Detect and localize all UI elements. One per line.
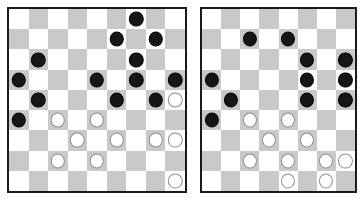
board-square[interactable] [336, 151, 355, 171]
board-square[interactable] [68, 151, 88, 171]
board-square[interactable] [317, 29, 336, 49]
white-piece[interactable] [262, 133, 276, 148]
white-piece[interactable] [168, 173, 182, 188]
board-square[interactable] [165, 90, 185, 110]
board-square[interactable] [107, 171, 127, 191]
board-square[interactable] [298, 171, 317, 191]
board-square[interactable] [29, 151, 49, 171]
black-piece[interactable] [204, 113, 218, 128]
white-piece[interactable] [319, 153, 333, 168]
black-piece[interactable] [12, 113, 26, 128]
board-square[interactable] [29, 90, 49, 110]
board-square[interactable] [29, 110, 49, 130]
board-square[interactable] [279, 171, 298, 191]
board-square[interactable] [107, 130, 127, 150]
black-piece[interactable] [204, 72, 218, 87]
board-square[interactable] [87, 171, 107, 191]
board-square[interactable] [87, 151, 107, 171]
board-square[interactable] [48, 9, 68, 29]
board-square[interactable] [336, 49, 355, 69]
board-square[interactable] [146, 171, 166, 191]
board-square[interactable] [126, 49, 146, 69]
black-piece[interactable] [109, 93, 123, 108]
board-square[interactable] [202, 110, 221, 130]
white-piece[interactable] [319, 173, 333, 188]
board-square[interactable] [165, 130, 185, 150]
board-square[interactable] [146, 9, 166, 29]
board-square[interactable] [202, 90, 221, 110]
black-piece[interactable] [148, 93, 162, 108]
board-square[interactable] [221, 171, 240, 191]
board-square[interactable] [87, 9, 107, 29]
board-square[interactable] [126, 171, 146, 191]
board-square[interactable] [317, 9, 336, 29]
board-square[interactable] [298, 90, 317, 110]
board-square[interactable] [259, 49, 278, 69]
board-square[interactable] [48, 110, 68, 130]
black-piece[interactable] [243, 32, 257, 47]
board-square[interactable] [259, 9, 278, 29]
board-square[interactable] [146, 29, 166, 49]
board-square[interactable] [29, 171, 49, 191]
white-piece[interactable] [281, 153, 295, 168]
board-square[interactable] [240, 49, 259, 69]
board-square[interactable] [336, 90, 355, 110]
black-piece[interactable] [90, 72, 104, 87]
board-square[interactable] [202, 49, 221, 69]
board-square[interactable] [202, 29, 221, 49]
board-square[interactable] [68, 171, 88, 191]
board-square[interactable] [126, 130, 146, 150]
black-piece[interactable] [148, 32, 162, 47]
board-square[interactable] [317, 70, 336, 90]
board-square[interactable] [9, 90, 29, 110]
white-piece[interactable] [70, 133, 84, 148]
board-square[interactable] [202, 151, 221, 171]
board-square[interactable] [240, 171, 259, 191]
board-square[interactable] [298, 70, 317, 90]
black-piece[interactable] [338, 93, 352, 108]
black-piece[interactable] [338, 52, 352, 67]
board-square[interactable] [68, 110, 88, 130]
board-square[interactable] [29, 29, 49, 49]
board-square[interactable] [9, 151, 29, 171]
board-square[interactable] [279, 49, 298, 69]
board-square[interactable] [202, 171, 221, 191]
board-square[interactable] [146, 130, 166, 150]
board-square[interactable] [221, 70, 240, 90]
board-square[interactable] [68, 49, 88, 69]
board-square[interactable] [165, 49, 185, 69]
board-square[interactable] [240, 9, 259, 29]
board-square[interactable] [279, 151, 298, 171]
board-square[interactable] [87, 130, 107, 150]
board-square[interactable] [259, 29, 278, 49]
board-square[interactable] [48, 171, 68, 191]
board-square[interactable] [146, 110, 166, 130]
white-piece[interactable] [109, 133, 123, 148]
board-square[interactable] [68, 29, 88, 49]
black-piece[interactable] [31, 93, 45, 108]
board-square[interactable] [298, 9, 317, 29]
board-square[interactable] [298, 130, 317, 150]
board-square[interactable] [259, 90, 278, 110]
white-piece[interactable] [51, 153, 65, 168]
board-square[interactable] [126, 90, 146, 110]
board-square[interactable] [279, 110, 298, 130]
white-piece[interactable] [281, 173, 295, 188]
black-piece[interactable] [300, 72, 314, 87]
board-square[interactable] [9, 171, 29, 191]
board-square[interactable] [48, 49, 68, 69]
board-square[interactable] [336, 29, 355, 49]
board-square[interactable] [317, 171, 336, 191]
board-square[interactable] [221, 110, 240, 130]
board-square[interactable] [9, 29, 29, 49]
board-square[interactable] [126, 151, 146, 171]
board-square[interactable] [126, 70, 146, 90]
board-square[interactable] [48, 151, 68, 171]
black-piece[interactable] [129, 12, 143, 27]
board-square[interactable] [317, 110, 336, 130]
black-piece[interactable] [338, 72, 352, 87]
board-square[interactable] [279, 90, 298, 110]
board-square[interactable] [48, 90, 68, 110]
board-square[interactable] [9, 130, 29, 150]
board-square[interactable] [29, 49, 49, 69]
